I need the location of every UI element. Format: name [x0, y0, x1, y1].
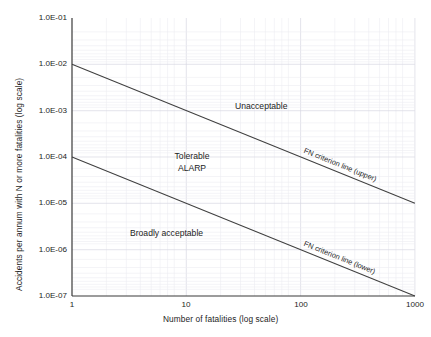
- region-label-alarp: ALARP: [161, 163, 223, 173]
- region-label-unacceptable: Unacceptable: [235, 101, 288, 111]
- x-tick-label-10: 10: [166, 300, 206, 309]
- y-tick-label-1e-06: 1.0E-06: [21, 245, 67, 254]
- y-tick-label-1e-03: 1.0E-03: [21, 106, 67, 115]
- y-tick-label-1e-04: 1.0E-04: [21, 152, 67, 161]
- x-tick-label-100: 100: [281, 300, 321, 309]
- x-axis-title: Number of fatalities (log scale): [163, 314, 278, 324]
- fn-criterion-chart: Accidents per annum with N or more fatal…: [0, 0, 431, 337]
- x-tick-label-1000: 1000: [395, 300, 431, 309]
- region-label-tolerable: Tolerable: [161, 151, 223, 161]
- y-tick-label-1e-05: 1.0E-05: [21, 198, 67, 207]
- horizontal-gridlines: [72, 32, 415, 289]
- y-tick-label-1e-02: 1.0E-02: [21, 59, 67, 68]
- x-tick-label-1: 1: [52, 300, 92, 309]
- y-tick-label-1e-01: 1.0E-01: [21, 13, 67, 22]
- y-tick-label-1e-07: 1.0E-07: [21, 291, 67, 300]
- region-label-broadly-acceptable: Broadly acceptable: [130, 228, 203, 238]
